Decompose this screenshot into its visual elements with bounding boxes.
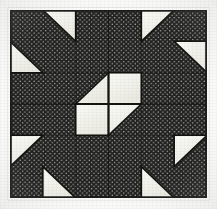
figure-root [0,0,217,209]
center-square-top-right [109,73,142,104]
quilt-block-container [10,10,207,198]
quilt-block-diagram [10,10,207,198]
center-square-bottom-left [76,104,109,135]
